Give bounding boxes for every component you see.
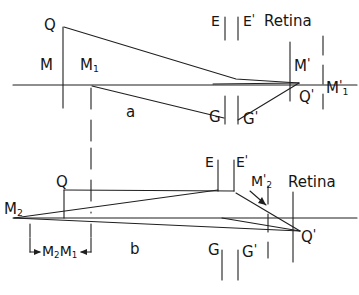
label-G-prime-b-mark: ' xyxy=(254,241,258,256)
label-G-prime-b: G' xyxy=(242,243,257,260)
ray-M2-to-E-b xyxy=(14,190,218,218)
label-G-b: G xyxy=(208,243,220,258)
label-G-prime-b-base: G xyxy=(242,243,254,261)
label-M2-prime-base: M xyxy=(251,173,263,189)
ray-M1-through-G-a xyxy=(92,86,224,118)
label-M2: M2 xyxy=(4,202,23,218)
label-G-prime-mark: ' xyxy=(255,108,259,123)
ray-M2-to-Qprime-b xyxy=(14,218,300,231)
label-E-prime-b-mark: ' xyxy=(245,153,248,167)
label-M2-base: M xyxy=(4,200,17,218)
label-M2-prime-sub: 2 xyxy=(266,180,272,190)
panel-b-group xyxy=(13,148,357,280)
dimension-label-M2M1: M2M1 xyxy=(42,244,77,260)
label-E-prime-b: E' xyxy=(236,155,248,169)
label-E-prime-b-base: E xyxy=(236,154,245,170)
arrow-M2prime-head xyxy=(258,197,266,205)
label-M2-sub: 2 xyxy=(17,207,23,218)
label-Q-prime-mark: ' xyxy=(311,86,315,101)
label-M-prime: M' xyxy=(294,57,310,74)
dimension-label-right-sub: 1 xyxy=(72,250,78,260)
label-E-prime-mark: ' xyxy=(252,12,255,26)
label-G-prime: G' xyxy=(243,110,258,127)
label-Q-prime: Q' xyxy=(299,88,314,105)
label-M1-prime-sub: 1 xyxy=(342,86,348,97)
label-E-prime-base: E xyxy=(243,13,252,29)
label-Q-b: Q xyxy=(56,175,68,190)
label-M1-sub: 1 xyxy=(93,63,99,74)
label-M: M xyxy=(40,58,53,73)
label-G: G xyxy=(209,110,221,125)
label-retina-b: Retina xyxy=(288,175,336,190)
label-retina-a: Retina xyxy=(264,14,312,29)
ray-axis-converge-a xyxy=(213,83,299,84)
dimension-label-left-base: M xyxy=(42,243,54,259)
ray-Q-through-lens-a xyxy=(64,27,299,83)
label-M-prime-base: M xyxy=(294,57,307,75)
label-M1-prime-base: M xyxy=(326,79,339,97)
label-Q-prime-b-mark: ' xyxy=(313,226,317,241)
label-E-b: E xyxy=(205,155,214,169)
label-Q-prime-base: Q xyxy=(299,88,311,106)
optics-ray-diagram: Q M M1 E E' Retina M' M'1 Q' G G' a Q M2… xyxy=(0,0,359,295)
label-Q-prime-b-base: Q xyxy=(301,228,313,246)
label-M1-base: M xyxy=(80,56,93,74)
dimension-label-right-base: M xyxy=(60,243,72,259)
label-G-prime-base: G xyxy=(243,110,255,128)
panel-a-group xyxy=(13,17,357,145)
label-M-prime-mark: ' xyxy=(307,55,311,70)
label-M1: M1 xyxy=(80,58,99,74)
label-E: E xyxy=(211,14,220,28)
panel-a-caption: a xyxy=(126,105,135,120)
label-Q-prime-b: Q' xyxy=(301,228,316,245)
label-M1-prime: M'1 xyxy=(326,79,348,96)
dimension-arrowhead-right xyxy=(80,249,87,255)
dimension-arrowhead-left xyxy=(34,249,41,255)
label-M2-prime: M'2 xyxy=(251,174,272,190)
label-Q: Q xyxy=(44,18,56,33)
panel-b-caption: b xyxy=(130,242,140,257)
label-E-prime: E' xyxy=(243,14,255,28)
